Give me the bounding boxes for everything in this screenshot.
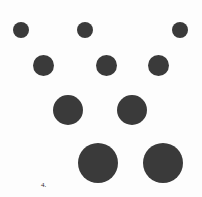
data-circle <box>13 22 29 38</box>
data-circle <box>117 95 147 125</box>
figure-panel: 4. <box>0 0 202 197</box>
data-circle <box>172 22 188 38</box>
data-circle <box>78 143 118 183</box>
data-circle <box>77 22 93 38</box>
data-circle <box>53 95 83 125</box>
data-circle <box>33 55 54 76</box>
data-circle <box>143 143 183 183</box>
data-circle <box>148 55 169 76</box>
data-circle <box>96 55 117 76</box>
figure-number-label: 4. <box>41 182 46 189</box>
